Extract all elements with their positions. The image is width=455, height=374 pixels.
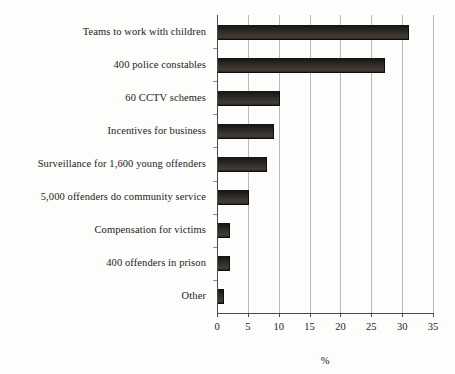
bar [218,289,224,304]
bar [218,25,409,40]
y-tick [213,214,217,215]
x-axis-title: % [217,355,433,366]
category-label: Compensation for victims [0,224,206,236]
y-tick [213,147,217,148]
category-label: 60 CCTV schemes [0,92,206,104]
category-label: 400 police constables [0,59,206,71]
bar [218,124,274,139]
y-tick [213,48,217,49]
x-tick-0 [217,313,218,317]
bar-chart: Teams to work with children400 police co… [0,0,455,374]
x-tick-label-25: 25 [356,321,386,332]
y-tick [213,247,217,248]
x-tick-25 [371,313,372,317]
category-label: 400 offenders in prison [0,257,206,269]
category-label: Surveillance for 1,600 young offenders [0,158,206,170]
bar [218,256,230,271]
x-axis-line [217,313,433,314]
x-tick-20 [340,313,341,317]
category-axis-labels: Teams to work with children400 police co… [0,15,212,313]
x-tick-label-20: 20 [325,321,355,332]
y-tick [213,181,217,182]
x-tick-label-10: 10 [264,321,294,332]
gridline-35 [433,15,434,313]
category-label: 5,000 offenders do community service [0,191,206,203]
x-tick-label-15: 15 [295,321,325,332]
x-tick-label-35: 35 [418,321,448,332]
bar [218,58,385,73]
bar [218,91,280,106]
category-label: Incentives for business [0,125,206,137]
bar [218,190,249,205]
bar [218,223,230,238]
x-tick-10 [279,313,280,317]
gridline-30 [402,15,403,313]
y-tick [213,81,217,82]
y-tick [213,280,217,281]
x-tick-label-0: 0 [202,321,232,332]
x-tick-35 [433,313,434,317]
x-tick-5 [248,313,249,317]
x-tick-15 [310,313,311,317]
bar [218,157,267,172]
category-label: Other [0,290,206,302]
category-label: Teams to work with children [0,26,206,38]
y-tick [213,114,217,115]
x-tick-30 [402,313,403,317]
x-tick-label-5: 5 [233,321,263,332]
x-tick-label-30: 30 [387,321,417,332]
plot-area: 05101520253035 % [217,15,433,313]
